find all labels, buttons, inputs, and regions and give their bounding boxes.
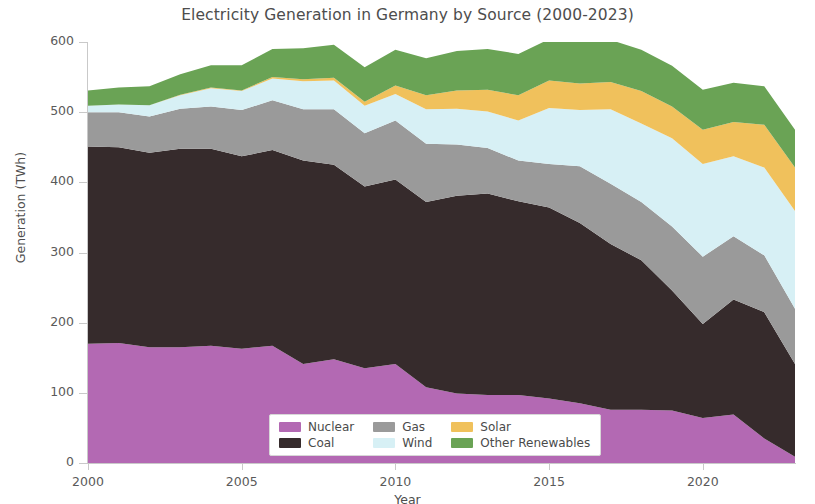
legend-label: Solar [480, 421, 511, 433]
x-tick-label-2000: 2000 [48, 474, 128, 489]
legend-label: Gas [402, 421, 425, 433]
x-tick-2015 [549, 463, 550, 470]
chart-legend: NuclearGasSolarCoalWindOther Renewables [269, 414, 601, 456]
legend-label: Coal [308, 437, 334, 449]
legend-item-nuclear[interactable]: Nuclear [279, 421, 354, 433]
chart-title: Electricity Generation in Germany by Sou… [0, 6, 815, 24]
y-tick-label-200: 200 [28, 316, 74, 329]
legend-swatch-icon [451, 438, 473, 448]
x-axis-title: Year [0, 492, 815, 504]
y-tick-300 [79, 253, 87, 254]
y-tick-100 [79, 393, 87, 394]
y-tick-0 [79, 463, 87, 464]
legend-swatch-icon [451, 422, 473, 432]
y-tick-label-300: 300 [28, 246, 74, 259]
y-tick-400 [79, 182, 87, 183]
legend-item-wind[interactable]: Wind [373, 437, 432, 449]
x-tick-2010 [395, 463, 396, 470]
plot-area [88, 42, 795, 463]
legend-label: Other Renewables [480, 437, 590, 449]
y-tick-500 [79, 112, 87, 113]
legend-swatch-icon [279, 438, 301, 448]
x-tick-label-2015: 2015 [509, 474, 589, 489]
legend-swatch-icon [373, 438, 395, 448]
legend-item-other-renewables[interactable]: Other Renewables [451, 437, 590, 449]
x-axis-line [87, 463, 796, 464]
y-tick-label-400: 400 [28, 175, 74, 188]
legend-label: Nuclear [308, 421, 354, 433]
y-tick-label-600: 600 [28, 35, 74, 48]
y-axis-title: Generation (TWh) [13, 108, 28, 308]
x-tick-2005 [242, 463, 243, 470]
x-tick-2000 [88, 463, 89, 470]
legend-label: Wind [402, 437, 432, 449]
y-tick-600 [79, 42, 87, 43]
y-tick-label-100: 100 [28, 386, 74, 399]
legend-item-solar[interactable]: Solar [451, 421, 590, 433]
y-tick-200 [79, 323, 87, 324]
x-tick-label-2010: 2010 [355, 474, 435, 489]
x-tick-label-2020: 2020 [663, 474, 743, 489]
x-tick-label-2005: 2005 [202, 474, 282, 489]
stacked-area-paths [88, 42, 795, 463]
chart-figure: Electricity Generation in Germany by Sou… [0, 0, 815, 504]
legend-swatch-icon [279, 422, 301, 432]
x-tick-2020 [703, 463, 704, 470]
y-tick-label-500: 500 [28, 105, 74, 118]
legend-swatch-icon [373, 422, 395, 432]
legend-item-gas[interactable]: Gas [373, 421, 432, 433]
legend-item-coal[interactable]: Coal [279, 437, 354, 449]
y-tick-label-0: 0 [28, 456, 74, 469]
